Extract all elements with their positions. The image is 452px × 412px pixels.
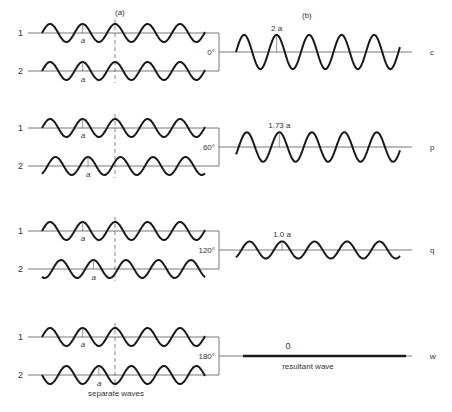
interference-row-120 bbox=[28, 217, 412, 281]
amplitude-label-2: a bbox=[81, 75, 86, 84]
phase-label: 120° bbox=[198, 246, 215, 255]
interference-row-180 bbox=[28, 323, 412, 387]
wave-1-label: 1 bbox=[18, 332, 23, 342]
resultant-amplitude-label: 1.73 a bbox=[268, 121, 291, 130]
resultant-amplitude-label: 1.0 a bbox=[273, 230, 291, 239]
amplitude-label-2: a bbox=[91, 273, 96, 282]
resultant-amplitude-label: 2 a bbox=[271, 24, 283, 33]
interference-row-60 bbox=[28, 114, 412, 178]
resultant-amplitude-label: 0 bbox=[285, 341, 290, 351]
wave-2-label: 2 bbox=[18, 66, 23, 76]
phase-label: 180° bbox=[198, 352, 215, 361]
phase-label: 60° bbox=[203, 143, 215, 152]
amplitude-label-1: a bbox=[81, 36, 86, 45]
interference-row-0 bbox=[28, 19, 412, 83]
wave-1-label: 1 bbox=[18, 226, 23, 236]
wave-1-label: 1 bbox=[18, 28, 23, 38]
bracket bbox=[28, 33, 219, 71]
separate-waves-caption: separate waves bbox=[88, 389, 144, 398]
resultant-label: c bbox=[430, 48, 434, 57]
amplitude-label-1: a bbox=[81, 234, 86, 243]
wave-2-label: 2 bbox=[18, 264, 23, 274]
resultant-label: p bbox=[430, 143, 435, 152]
wave-2-label: 2 bbox=[18, 370, 23, 380]
phase-label: 0° bbox=[207, 48, 215, 57]
header-a: (a) bbox=[115, 8, 125, 17]
resultant-wave-caption: resultant wave bbox=[282, 362, 334, 371]
amplitude-label-2: a bbox=[97, 379, 102, 388]
wave-interference-diagram: (a)(b)12aa0°2 ac12aa60°1.73 ap12aa120°1.… bbox=[0, 0, 452, 412]
wave-2-label: 2 bbox=[18, 161, 23, 171]
amplitude-label-1: a bbox=[81, 131, 86, 140]
resultant-label: w bbox=[429, 352, 436, 361]
wave-1-label: 1 bbox=[18, 123, 23, 133]
bracket bbox=[28, 337, 219, 375]
amplitude-label-2: a bbox=[86, 170, 91, 179]
resultant-label: q bbox=[430, 246, 434, 255]
header-b: (b) bbox=[302, 11, 312, 20]
amplitude-label-1: a bbox=[81, 340, 86, 349]
